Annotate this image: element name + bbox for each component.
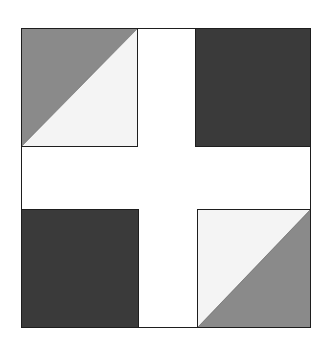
- block-top-left-half-triangle: [21, 28, 138, 147]
- block-top-right-solid: [195, 28, 311, 147]
- block-bottom-right-half-triangle: [197, 209, 311, 328]
- block-bottom-left-solid: [21, 209, 139, 328]
- half-square-triangle-shape: [198, 210, 310, 327]
- half-square-triangle-shape: [22, 29, 137, 146]
